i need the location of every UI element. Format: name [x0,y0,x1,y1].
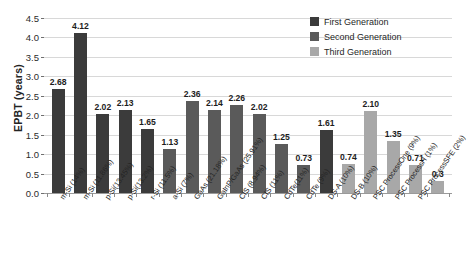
legend-item[interactable]: Third Generation [310,46,402,57]
bar-value-label: 1.35 [385,129,402,139]
legend-item-label: First Generation [324,17,389,27]
bar-value-label: 1.61 [318,118,335,128]
y-tick-label: 2.0 [26,110,39,121]
bar-value-label: 1.13 [161,137,178,147]
y-tick-label: 3.5 [26,51,39,62]
bar-value-label: 2.68 [50,77,67,87]
bar-value-label: 2.10 [362,99,379,109]
bar-value-label: 0.74 [340,152,357,162]
y-tick-label: 0.0 [26,188,39,199]
bar-value-label: 2.02 [94,102,111,112]
y-tick-label: 4.5 [26,13,39,24]
bar-value-label: 2.14 [206,98,223,108]
bar-value-label: 2.26 [228,93,245,103]
bar-value-label: 1.65 [139,117,156,127]
legend-swatch-icon [310,47,319,56]
bar-value-label: 2.36 [184,89,201,99]
bar-value-label: 1.25 [273,132,290,142]
bar-slot: 1.25 [270,18,292,193]
bar[interactable]: 2.68 [52,89,65,193]
bar-value-label: 0.73 [295,153,312,163]
x-axis-labels: m-Si (14%)m-Si (11.86%)p-Si(13.45%)p-Si(… [44,196,452,276]
y-tick-label: 4.0 [26,32,39,43]
bar-slot: 2.68 [47,18,69,193]
y-tick-label: 1.0 [26,149,39,160]
y-tick-label: 2.5 [26,90,39,101]
y-axis-title: EPBT (years) [12,38,24,158]
legend-swatch-icon [310,32,319,41]
y-tick-label: 0.5 [26,168,39,179]
legend-item[interactable]: Second Generation [310,31,402,42]
bar-value-label: 4.12 [72,21,89,31]
legend-swatch-icon [310,17,319,26]
y-tick-label: 3.0 [26,71,39,82]
legend-item-label: Second Generation [324,32,402,42]
bar-value-label: 2.13 [117,98,134,108]
legend-item[interactable]: First Generation [310,16,402,27]
legend-item-label: Third Generation [324,47,392,57]
y-tick-label: 1.5 [26,129,39,140]
bar-slot: 2.36 [181,18,203,193]
bar-value-label: 2.02 [251,102,268,112]
legend: First GenerationSecond GenerationThird G… [310,16,402,57]
